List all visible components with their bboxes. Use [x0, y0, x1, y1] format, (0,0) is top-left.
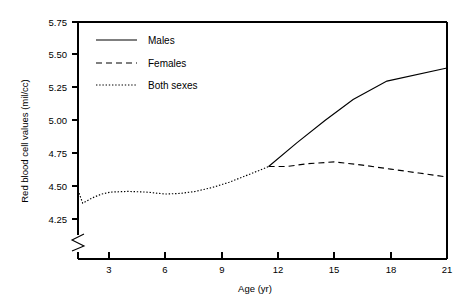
y-tick-label-5-00: 5.00	[49, 115, 68, 126]
legend-label-both-sexes: Both sexes	[148, 80, 197, 91]
y-tick-label-4-75: 4.75	[49, 148, 68, 159]
x-tick-label-21: 21	[442, 264, 453, 275]
y-tick-label-5-25: 5.25	[49, 82, 68, 93]
x-tick-label-3: 3	[106, 264, 111, 275]
legend-label-females: Females	[148, 58, 186, 69]
y-tick-label-5-75: 5.75	[49, 17, 68, 28]
x-tick-label-12: 12	[273, 264, 284, 275]
chart-figure: 4.25 4.50 4.75 5.00 5.25 5.50 5.75 Red b…	[0, 0, 465, 301]
y-tick-label-4-50: 4.50	[49, 181, 68, 192]
y-tick-label-5-50: 5.50	[49, 49, 68, 60]
y-axis-title: Red blood cell values (mil/cc)	[19, 79, 30, 203]
x-tick-label-18: 18	[386, 264, 397, 275]
y-tick-label-4-25: 4.25	[49, 214, 68, 225]
legend-label-males: Males	[148, 35, 175, 46]
x-axis-title: Age (yr)	[238, 283, 272, 294]
chart-background	[0, 0, 465, 301]
x-tick-label-15: 15	[329, 264, 340, 275]
x-tick-label-9: 9	[219, 264, 224, 275]
x-tick-label-6: 6	[162, 264, 167, 275]
red-blood-cell-line-chart: 4.25 4.50 4.75 5.00 5.25 5.50 5.75 Red b…	[0, 0, 465, 301]
